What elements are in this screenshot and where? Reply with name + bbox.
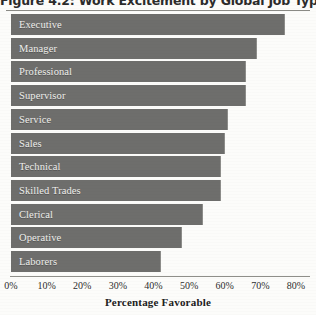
- bar-row: Clerical: [0, 204, 316, 225]
- bar-category-label: Technical: [19, 156, 61, 177]
- bar-category-label: Manager: [19, 38, 57, 59]
- figure-container: Figure 4.2: Work Excitement by Global Jo…: [0, 0, 316, 315]
- bar-row: Skilled Trades: [0, 180, 316, 201]
- bar-category-label: Sales: [19, 133, 42, 154]
- x-tick-label: 40%: [144, 279, 162, 293]
- title-divider: [6, 10, 310, 11]
- bar-category-label: Supervisor: [19, 85, 66, 106]
- bar-row: Supervisor: [0, 85, 316, 106]
- bar-row: Laborers: [0, 251, 316, 272]
- bar-category-label: Laborers: [19, 251, 57, 272]
- x-tick-label: 50%: [180, 279, 198, 293]
- x-tick-label: 20%: [73, 279, 91, 293]
- bar-row: Service: [0, 109, 316, 130]
- plot-area: ExecutiveManagerProfessionalSupervisorSe…: [0, 14, 316, 276]
- bar-category-label: Executive: [19, 14, 62, 35]
- bar-row: Professional: [0, 61, 316, 82]
- bar-row: Executive: [0, 14, 316, 35]
- x-tick-label: 10%: [37, 279, 55, 293]
- x-axis-label: Percentage Favorable: [0, 296, 316, 308]
- bar-category-label: Operative: [19, 227, 61, 248]
- bar-row: Manager: [0, 38, 316, 59]
- x-axis-line: [10, 276, 310, 277]
- x-axis-tick-labels: 0%10%20%30%40%50%60%70%80%: [0, 279, 316, 294]
- x-tick-label: 0%: [4, 279, 17, 293]
- bar-row: Operative: [0, 227, 316, 248]
- bar-category-label: Professional: [19, 61, 72, 82]
- bar-row: Technical: [0, 156, 316, 177]
- x-tick-label: 80%: [287, 279, 305, 293]
- x-tick-label: 60%: [216, 279, 234, 293]
- bar-category-label: Skilled Trades: [19, 180, 81, 201]
- bar: [11, 133, 225, 154]
- bar-category-label: Clerical: [19, 204, 53, 225]
- x-tick-label: 30%: [109, 279, 127, 293]
- bar-category-label: Service: [19, 109, 51, 130]
- x-tick-label: 70%: [251, 279, 269, 293]
- figure-title: Figure 4.2: Work Excitement by Global Jo…: [0, 0, 316, 9]
- bar-row: Sales: [0, 133, 316, 154]
